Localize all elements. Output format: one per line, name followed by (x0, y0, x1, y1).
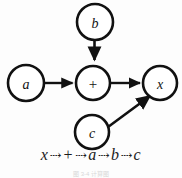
sequence-arrow-icon: ⇢ (48, 148, 62, 163)
figure-container: b a + x c x⇢+⇢a⇢b⇢c 图 3-4 计算图 (0, 0, 182, 178)
node-x-label: x (156, 77, 164, 92)
sequence-arrow-icon: ⇢ (74, 148, 88, 163)
node-b[interactable]: b (77, 4, 113, 40)
node-b-label: b (92, 16, 99, 31)
figure-caption: 图 3-4 计算图 (0, 170, 182, 178)
sequence-text: x⇢+⇢a⇢b⇢c (0, 146, 182, 164)
sequence-item-a: a (88, 146, 97, 163)
sequence-item-c: c (134, 146, 142, 163)
node-a[interactable]: a (8, 65, 44, 101)
node-c[interactable]: c (75, 115, 109, 149)
node-plus[interactable]: + (76, 66, 110, 100)
node-plus-label: + (89, 76, 97, 92)
sequence-item-plus: + (63, 146, 74, 163)
edge-c-to-x (108, 96, 150, 127)
node-c-label: c (89, 126, 96, 141)
sequence-arrow-icon: ⇢ (97, 148, 111, 163)
node-x[interactable]: x (143, 66, 177, 100)
node-a-label: a (23, 77, 30, 92)
sequence-arrow-icon: ⇢ (119, 148, 133, 163)
